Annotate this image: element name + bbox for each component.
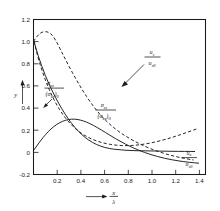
sigma-zz-numerator: σzz: [101, 101, 108, 110]
x-axis-label-numerator: x: [111, 189, 115, 196]
annotation-sigma-xx: σxx (σxx)0: [43, 79, 64, 108]
curve-sigma-zz-over-sigma-xx0: [34, 119, 199, 163]
x-tick-label-1: 0.4: [77, 177, 86, 184]
uz-numerator: uz: [150, 48, 155, 57]
y-tick-label-1: 1.0: [21, 38, 30, 45]
figure-plot-area: 1.2 1.0 0.8 0.6 0.4 0.2 0 -0.2 0.2 0.4 0…: [0, 0, 220, 211]
annotation-sigma-zz: σzz (σxx)0: [96, 101, 117, 121]
x-tick-label-2: 0.6: [100, 177, 109, 184]
y-tick-label-5: 0.2: [21, 127, 30, 134]
y-tick-label-2: 0.8: [21, 60, 30, 67]
y-axis-label-group: y: [13, 80, 24, 104]
y-tick-label-7: -0.2: [19, 171, 30, 178]
x-tick-label-5: 1.2: [171, 177, 180, 184]
y-tick-label-6: 0: [27, 149, 31, 156]
sigma-zz-denominator: (σxx)0: [97, 112, 111, 121]
x-axis-label-group: x λ: [86, 189, 118, 205]
uz-denominator: uz0: [149, 59, 157, 68]
x-tick-label-3: 0.8: [124, 177, 133, 184]
ux-denominator: uz0: [186, 160, 194, 169]
y-tick-label-0: 1.2: [21, 16, 30, 23]
curve-ux-over-uz0: [34, 42, 198, 146]
x-tick-label-0: 0.2: [53, 177, 62, 184]
y-tick-label-4: 0.4: [21, 104, 30, 111]
y-axis-label: y: [13, 91, 17, 98]
x-axis-ticks: [57, 170, 199, 175]
sigma-xx-numerator: σxx: [47, 79, 54, 88]
x-tick-label-6: 1.4: [195, 177, 204, 184]
x-axis-arrow-icon: [102, 195, 107, 199]
x-axis-label-denominator: λ: [111, 198, 115, 205]
x-tick-label-4: 1.0: [148, 177, 157, 184]
annotation-uz: uz uz0: [121, 48, 160, 87]
ux-numerator: ux: [186, 149, 191, 158]
